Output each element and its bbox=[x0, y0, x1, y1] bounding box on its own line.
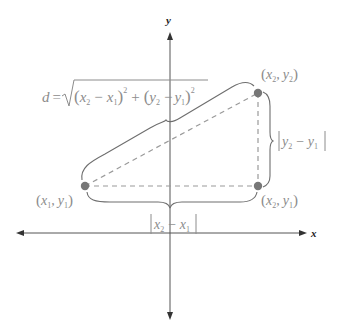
hypotenuse-dashed-line bbox=[85, 93, 258, 186]
point-x2-y2 bbox=[254, 89, 262, 97]
y-axis-up-arrow-icon bbox=[167, 32, 173, 40]
svg-text:x2−x1: x2−x1 bbox=[153, 217, 190, 234]
label-x2-y2: (x2,y2) bbox=[261, 66, 298, 84]
distance-formula-diagram: x y (x1,y1) (x2,y2) (x2,y1) bbox=[0, 0, 344, 335]
horizontal-distance-label: x2−x1 bbox=[151, 214, 196, 234]
point-x1-y1 bbox=[81, 182, 89, 190]
y-axis-label: y bbox=[164, 14, 171, 26]
x-axis-left-arrow-icon bbox=[16, 230, 24, 236]
svg-text:(x2−x1)2+(y2−y1)2: (x2−x1)2+(y2−y1)2 bbox=[74, 86, 195, 107]
svg-text:y2−y1: y2−y1 bbox=[280, 134, 318, 151]
point-x2-y1 bbox=[254, 182, 262, 190]
vertical-distance-label: y2−y1 bbox=[279, 131, 325, 151]
horizontal-brace bbox=[87, 192, 257, 208]
x-axis-right-arrow-icon bbox=[299, 230, 307, 236]
distance-formula: d= (x2−x1)2+(y2−y1)2 bbox=[42, 80, 208, 107]
y-axis-down-arrow-icon bbox=[167, 312, 173, 320]
vertical-brace bbox=[263, 92, 273, 187]
label-x2-y1: (x2,y1) bbox=[261, 192, 298, 210]
label-x1-y1: (x1,y1) bbox=[36, 192, 73, 210]
coordinate-axes: x y bbox=[16, 14, 317, 320]
formula-lhs: d bbox=[42, 89, 50, 105]
x-axis-label: x bbox=[310, 227, 317, 239]
svg-text:d=: d= bbox=[42, 89, 61, 105]
right-triangle bbox=[85, 93, 258, 186]
